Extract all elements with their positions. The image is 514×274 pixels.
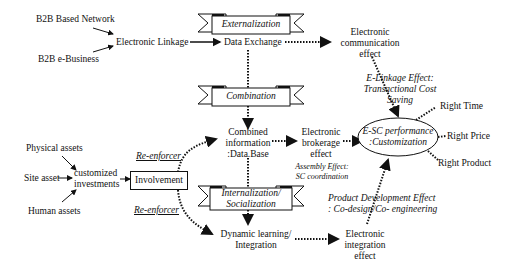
reenforcer-bottom-label: Re-enforcer — [134, 205, 179, 216]
integration-l2: integration — [340, 240, 390, 251]
esc-l2: :Customization — [358, 137, 438, 148]
externalization-label: Externalization — [212, 19, 290, 30]
physical-assets-label: Physical assets — [26, 143, 83, 154]
dynamic-l1: Dynamic learning/ — [214, 229, 298, 240]
assembly-l1: Assembly Effect: — [292, 162, 352, 172]
comm-effect-l3: effect — [330, 49, 410, 60]
b2b-network-label: B2B Based Network — [36, 14, 115, 25]
internalization-label: Internalization/ — [210, 188, 292, 199]
involvement-box: Involvement — [130, 171, 188, 190]
brokerage-l3: effect — [296, 149, 346, 160]
elinkage-l3: Saving — [355, 95, 445, 106]
right-product-label: Right Product — [438, 158, 491, 169]
right-price-label: Right Price — [447, 131, 490, 142]
elinkage-l1: E-Linkage Effect: — [355, 73, 445, 84]
integration-l3: effect — [340, 251, 390, 262]
socialization-label: Socialization — [210, 199, 292, 210]
human-assets-label: Human assets — [28, 206, 81, 217]
b2b-ebusiness-label: B2B e-Business — [38, 54, 99, 65]
assembly-l2: SC coordination — [292, 172, 352, 182]
brokerage-l2: brokerage — [296, 138, 346, 149]
reenforcer-top-label: Re-enforcer — [136, 151, 181, 162]
combined-l3: :Data.Base — [220, 149, 276, 160]
data-exchange-label: Data Exchange — [224, 37, 282, 48]
product-dev-l2: : Co-design/Co- engineering — [328, 204, 437, 215]
electronic-linkage-label: Electronic Linkage — [116, 37, 189, 48]
integration-l1: Electronic — [340, 229, 390, 240]
brokerage-l1: Electronic — [296, 127, 346, 138]
customized-l2: investments — [74, 179, 119, 190]
comm-effect-l1: Electronic — [330, 27, 410, 38]
combined-l1: Combined — [220, 127, 276, 138]
right-time-label: Right Time — [440, 101, 483, 112]
esc-l1: E-SC performance — [358, 126, 438, 137]
site-asset-label: Site asset — [24, 173, 60, 184]
dynamic-l2: Integration — [214, 240, 298, 251]
combination-label: Combination — [212, 91, 290, 102]
combined-l2: information — [220, 138, 276, 149]
comm-effect-l2: communication — [330, 38, 410, 49]
product-dev-l1: Product Development Effect — [328, 193, 435, 204]
elinkage-l2: Transactional Cost — [355, 84, 445, 95]
customized-l1: customized — [74, 168, 117, 179]
